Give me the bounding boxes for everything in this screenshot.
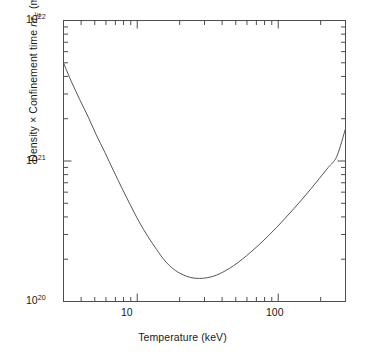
data-curve [64, 63, 346, 279]
x-tick-label-10: 10 [121, 306, 133, 318]
x-tick-label-100: 100 [266, 306, 284, 318]
plot-area [0, 0, 365, 359]
axis-ticks [64, 21, 346, 302]
lawson-criterion-figure: 1022 1021 1020 10 100 Temperature (keV) … [0, 0, 365, 359]
axes-frame [64, 21, 346, 302]
y-axis-title: Density × Confinement time nτE (m−3 s) [27, 0, 39, 162]
x-axis-title: Temperature (keV) [0, 331, 365, 343]
y-axis-title-wrapper: Density × Confinement time nτE (m−3 s) [23, 0, 41, 219]
y-tick-label-1e20: 1020 [26, 294, 46, 306]
